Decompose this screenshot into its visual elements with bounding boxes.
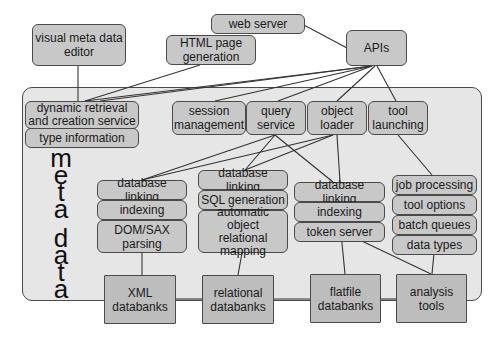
relational-databanks: relational databanks xyxy=(202,275,274,324)
job-processing: job processing xyxy=(392,175,477,195)
visual-meta-data-editor: visual meta data editor xyxy=(32,24,126,66)
object-loader: object loader xyxy=(307,101,367,135)
architecture-diagram: visual meta data editor web server HTML … xyxy=(0,0,501,343)
html-page-generation: HTML page generation xyxy=(166,35,256,65)
dom-sax-parsing: DOM/SAX parsing xyxy=(97,220,187,253)
analysis-tools: analysis tools xyxy=(396,274,467,323)
xml-database-linking: database linking xyxy=(97,180,187,200)
batch-queues: batch queues xyxy=(392,215,477,235)
dynamic-retrieval-service: dynamic retrieval and creation service xyxy=(25,101,139,129)
xml-indexing: indexing xyxy=(97,200,187,220)
session-management: session management xyxy=(172,101,246,135)
web-server: web server xyxy=(211,14,305,34)
meta-data-vertical-label: m e t a d a t a xyxy=(46,150,76,298)
xml-databanks: XML databanks xyxy=(104,275,176,324)
type-information: type information xyxy=(25,128,139,148)
data-types: data types xyxy=(392,235,477,255)
apis: APIs xyxy=(346,30,407,66)
relational-database-linking: database linking xyxy=(198,170,288,190)
token-server: token server xyxy=(294,222,385,242)
flatfile-indexing: indexing xyxy=(294,202,385,222)
tool-launching: tool launching xyxy=(368,101,428,135)
flatfile-databanks: flatfile databanks xyxy=(310,274,381,323)
tool-options: tool options xyxy=(392,195,477,215)
object-relational-mapping: automatic object relational mapping xyxy=(198,210,288,253)
query-service: query service xyxy=(246,101,306,135)
flatfile-database-linking: database linking xyxy=(294,182,385,202)
